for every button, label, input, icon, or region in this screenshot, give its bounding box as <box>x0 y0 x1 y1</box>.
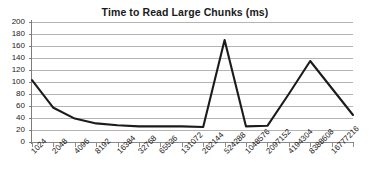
x-tick-2097152 <box>267 143 268 147</box>
series-path-time-to-read <box>32 40 353 127</box>
x-tick-65536 <box>160 143 161 147</box>
x-tick-8192 <box>96 143 97 147</box>
x-tick-1024 <box>32 143 33 147</box>
y-tick-60 <box>29 106 32 107</box>
y-tick-180 <box>29 34 32 35</box>
x-tick-16384 <box>118 143 119 147</box>
x-tick-2048 <box>53 143 54 147</box>
x-tick-16777216 <box>332 143 333 147</box>
y-tick-40 <box>29 118 32 119</box>
y-tick-20 <box>29 130 32 131</box>
y-tick-80 <box>29 94 32 95</box>
y-tick-140 <box>29 58 32 59</box>
x-tick-4194304 <box>289 143 290 147</box>
x-tick-524288 <box>225 143 226 147</box>
y-tick-120 <box>29 70 32 71</box>
y-tick-160 <box>29 46 32 47</box>
y-tick-200 <box>29 22 32 23</box>
y-tick-100 <box>29 82 32 83</box>
x-tick-131072 <box>182 143 183 147</box>
series-line-chart <box>32 22 353 142</box>
x-tick-8388608 <box>310 143 311 147</box>
x-tick-262144 <box>203 143 204 147</box>
x-tick-4096 <box>75 143 76 147</box>
x-tick-pos-15 <box>353 143 354 147</box>
x-tick-32768 <box>139 143 140 147</box>
x-tick-1048576 <box>246 143 247 147</box>
chart-container: Time to Read Large Chunks (ms) 020406080… <box>0 0 370 192</box>
